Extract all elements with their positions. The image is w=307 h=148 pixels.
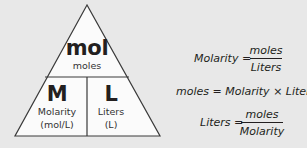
molarity-label: Molarity <box>38 107 76 117</box>
moles-symbol: mol <box>66 38 109 59</box>
molarity-symbol: M <box>47 84 68 105</box>
formula-liters-lhs: Liters = <box>200 117 243 128</box>
formula-molarity-lhs: Molarity = <box>194 53 251 64</box>
liters-symbol: L <box>104 84 117 105</box>
moles-label: moles <box>73 61 102 71</box>
molarity-diagram: mol moles M Molarity (mol/L) L Liters (L… <box>0 0 307 148</box>
formula-liters-numerator: moles <box>246 109 279 122</box>
formula-moles: moles = Molarity × Liters <box>176 86 307 97</box>
formula-molarity-numerator: moles <box>250 45 283 58</box>
liters-unit: (L) <box>105 120 118 130</box>
formula-liters-denominator: Molarity <box>240 123 284 137</box>
formula-molarity-denominator: Liters <box>251 59 282 73</box>
molarity-unit: (mol/L) <box>40 120 74 130</box>
formula-liters-fraction: moles Molarity <box>241 109 283 137</box>
formula-molarity-fraction: moles Liters <box>250 45 282 73</box>
liters-label: Liters <box>98 107 124 117</box>
